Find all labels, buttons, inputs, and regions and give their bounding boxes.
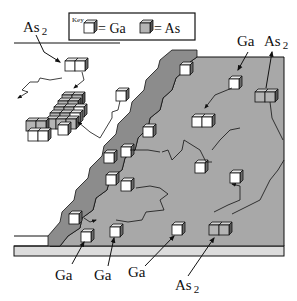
mbe-growth-diagram: Key = Ga = As As2 <box>0 0 297 301</box>
diffusion-path <box>74 72 84 88</box>
ga-adatom-bottom <box>81 229 94 242</box>
label-ga-bottom-3: Ga <box>128 264 146 280</box>
ga-at-step <box>121 144 134 157</box>
ga-at-step <box>143 124 156 137</box>
ga-at-step <box>69 211 82 224</box>
ga-at-step <box>180 62 193 75</box>
ga-adatom <box>121 178 134 191</box>
island-cluster <box>26 92 87 141</box>
as-dimer-right <box>265 89 278 102</box>
ga-adatom <box>230 170 243 183</box>
ga-adatom-bottom <box>110 224 123 237</box>
label-ga-bottom-2: Ga <box>94 267 112 283</box>
ga-dimer-right <box>202 114 215 127</box>
svg-text:As2: As2 <box>23 19 47 37</box>
as-cube-icon <box>140 20 153 33</box>
label-as2-top-left: As2 <box>23 19 47 37</box>
as2-dimer-upper <box>65 58 88 71</box>
label-as2-top-right: As2 <box>264 33 288 51</box>
as-dimer-bottom-right <box>219 222 232 235</box>
diffusion-path <box>18 78 62 98</box>
label-ga-top-right: Ga <box>237 33 255 49</box>
ga-at-step <box>104 150 117 163</box>
key-legend: Key = Ga = As <box>69 13 195 40</box>
ga-adatom-bottom <box>172 222 185 235</box>
label-as2-bottom: As2 <box>175 277 199 295</box>
key-ga-label: = Ga <box>98 21 127 36</box>
ga-at-step <box>106 172 119 185</box>
ga-adatom <box>229 76 242 89</box>
arrow-as2-incoming <box>36 35 60 62</box>
ga-cube-icon <box>84 20 97 33</box>
ga-adatom <box>116 88 129 101</box>
key-title: Key <box>72 16 84 24</box>
key-as-label: = As <box>154 21 180 36</box>
label-ga-bottom-1: Ga <box>55 267 73 283</box>
